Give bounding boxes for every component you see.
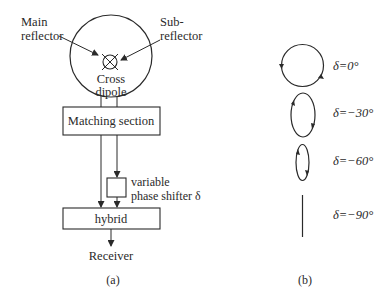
cross-dipole-icon: [102, 54, 118, 70]
phase-shifter-label-1: variable: [131, 175, 170, 189]
panel-a: Main reflector Sub- reflector Cross dipo…: [21, 15, 203, 287]
main-reflector-label-2: reflector: [21, 29, 64, 43]
delta-label-30: δ=−30°: [333, 106, 373, 120]
phase-shifter-label-2: phase shifter δ: [131, 189, 201, 203]
caption-b: (b): [298, 273, 312, 287]
cross-dipole-label-1: Cross: [97, 72, 126, 86]
diagram-canvas: Main reflector Sub- reflector Cross dipo…: [0, 0, 392, 301]
panel-b: δ=0° δ=−30° δ=−60° δ=−90° (b): [279, 45, 373, 288]
hybrid-label: hybrid: [95, 212, 128, 226]
polarization-narrow-ellipse-icon: [296, 145, 309, 181]
main-reflector-arrow: [59, 36, 98, 55]
sub-reflector-label-1: Sub-: [160, 15, 184, 29]
sub-reflector-arrow: [121, 40, 160, 60]
sub-reflector-label-2: reflector: [160, 29, 203, 43]
delta-label-90: δ=−90°: [333, 208, 373, 222]
polarization-ellipse-icon: [291, 93, 315, 137]
matching-section-label: Matching section: [68, 114, 155, 128]
cross-dipole-label-2: dipole: [95, 85, 127, 99]
main-reflector-label-1: Main: [21, 15, 48, 29]
delta-label-60: δ=−60°: [333, 154, 373, 168]
delta-label-0: δ=0°: [333, 59, 359, 73]
receiver-label: Receiver: [89, 249, 134, 263]
caption-a: (a): [106, 273, 119, 287]
phase-shifter-box: [107, 178, 126, 197]
polarization-circle-icon: [279, 45, 324, 87]
